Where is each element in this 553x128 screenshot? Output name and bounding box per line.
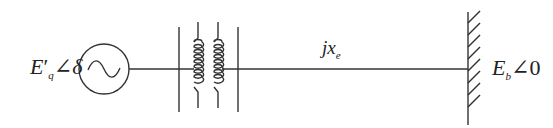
line-reactance-label: jxe	[322, 37, 341, 61]
bus-angle: ∠	[511, 55, 529, 80]
bus-e: E	[492, 55, 505, 80]
bus-phase: 0	[529, 55, 540, 80]
xfmr-primary-winding	[194, 22, 204, 108]
bus-voltage-label: Eb∠0	[492, 55, 540, 82]
line-sub: e	[336, 49, 341, 61]
sine-wave-icon	[88, 61, 120, 77]
xfmr-secondary-winding	[214, 22, 224, 108]
line-jx: jx	[322, 37, 336, 58]
gen-e: E	[30, 54, 43, 79]
one-line-diagram	[0, 0, 553, 128]
generator-voltage-label: E′q∠δ	[30, 54, 82, 81]
gen-angle: ∠	[54, 54, 72, 79]
ground-hatch-icon	[468, 11, 480, 107]
gen-phase: δ	[72, 54, 82, 79]
